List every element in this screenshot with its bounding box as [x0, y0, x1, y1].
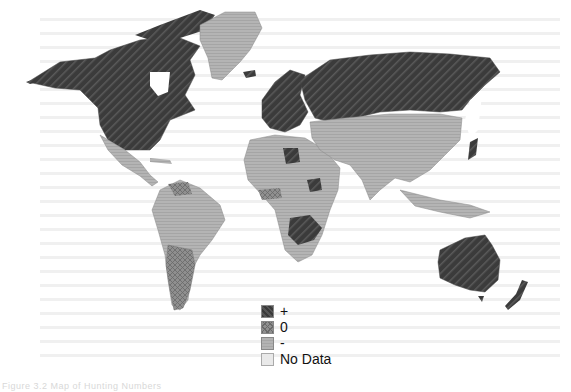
region-new-zealand — [505, 280, 528, 310]
figure-caption: Figure 3.2 Map of Hunting Numbers — [2, 381, 162, 391]
region-japan — [468, 138, 478, 160]
legend-label-nodata: No Data — [280, 351, 331, 367]
legend-item-plus: + — [261, 303, 331, 319]
map-legend: + 0 - No Data — [261, 303, 331, 367]
region-greenland — [200, 12, 262, 80]
legend-label-zero: 0 — [280, 319, 288, 335]
legend-item-zero: 0 — [261, 319, 331, 335]
region-north-america — [28, 36, 200, 150]
legend-swatch-zero — [261, 321, 274, 334]
legend-label-plus: + — [280, 303, 288, 319]
legend-item-nodata: No Data — [261, 351, 331, 367]
legend-swatch-minus — [261, 337, 274, 350]
legend-swatch-plus — [261, 305, 274, 318]
legend-swatch-nodata — [261, 353, 274, 366]
region-argentina-chile — [166, 245, 195, 310]
legend-label-minus: - — [280, 335, 285, 351]
legend-item-minus: - — [261, 335, 331, 351]
region-southeast-asia — [400, 190, 490, 218]
region-australia — [438, 235, 500, 292]
